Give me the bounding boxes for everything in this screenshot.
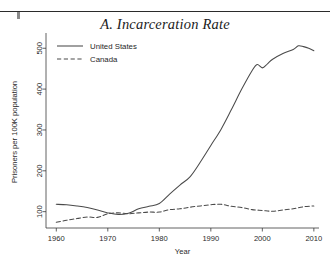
x-axis-tick-label: 1960 [48,234,65,243]
chart-legend: United StatesCanada [57,42,137,64]
x-axis-tick-label: 2010 [305,234,322,243]
x-axis-tick-label: 1990 [202,234,219,243]
series-line-canada [56,204,314,222]
y-axis-tick-label: 300 [36,124,45,137]
series-line-united-states [56,46,314,215]
x-axis-tick-label: 1980 [151,234,168,243]
y-axis-tick-label: 500 [36,42,45,55]
page-title: A. Incarceration Rate [0,16,330,33]
y-axis-tick-label: 200 [36,164,45,177]
y-axis-tick-label: 100 [36,205,45,218]
y-axis-tick-label: 400 [36,83,45,96]
legend-label-united-states: United States [90,42,137,51]
x-axis-title: Year [175,247,191,256]
incarceration-rate-line-chart: 100200300400500196019701980199020002010Y… [0,0,330,263]
x-axis-tick-label: 2000 [254,234,271,243]
y-axis-title: Prisoners per 100K population [10,81,19,183]
figure-container: A. Incarceration Rate 100200300400500196… [0,0,330,263]
series-layer [56,46,314,223]
page-rule-divider [0,11,330,12]
x-axis-tick-label: 1970 [99,234,116,243]
legend-label-canada: Canada [90,55,118,64]
